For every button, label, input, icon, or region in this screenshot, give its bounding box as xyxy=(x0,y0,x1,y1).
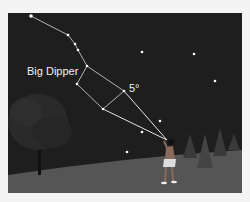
angle-label: 5° xyxy=(129,83,140,94)
star-icon xyxy=(67,34,70,37)
star-icon xyxy=(29,14,33,18)
star-icon xyxy=(141,51,144,54)
star-icon xyxy=(76,83,79,86)
star-icon xyxy=(159,120,162,123)
star-icon xyxy=(126,151,129,154)
star-icon xyxy=(193,53,196,56)
star-icon xyxy=(214,80,217,83)
night-sky-illustration: Big Dipper 5° xyxy=(8,13,242,193)
star-icon xyxy=(77,49,80,52)
tree xyxy=(8,94,72,175)
star-icon xyxy=(141,131,144,134)
star-icon xyxy=(123,90,126,93)
big-dipper-label: Big Dipper xyxy=(27,66,78,77)
scene-svg xyxy=(8,13,242,193)
star-icon xyxy=(86,65,89,68)
star-icon xyxy=(74,43,77,46)
sight-lines xyxy=(103,91,167,140)
star-icon xyxy=(102,108,105,111)
